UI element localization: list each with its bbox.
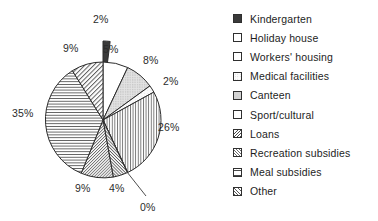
legend-item-other[interactable]: Other bbox=[233, 182, 378, 201]
legend-item-holiday-house[interactable]: Holiday house bbox=[233, 28, 378, 47]
pie-label-canteen: 26% bbox=[158, 122, 179, 133]
legend-swatch-other-icon bbox=[233, 187, 242, 196]
leader-line-sport-cultural bbox=[127, 172, 146, 196]
chart-plot-area: 2% 5% 9% 8% 2% 26% 35% 9% 4% 0% bbox=[0, 0, 200, 221]
legend-label-recreation-subsidies: Recreation subsidies bbox=[250, 147, 350, 159]
legend-item-loans[interactable]: Loans bbox=[233, 124, 378, 143]
pie-label-workers-housing: 8% bbox=[143, 55, 158, 66]
pie-label-other: 9% bbox=[63, 43, 78, 54]
legend-swatch-recreation-subsidies-icon bbox=[233, 148, 242, 157]
legend-item-workers-housing[interactable]: Workers' housing bbox=[233, 47, 378, 66]
legend-swatch-loans-icon bbox=[233, 129, 242, 138]
legend-label-kindergarten: Kindergarten bbox=[250, 13, 312, 25]
legend-item-kindergarten[interactable]: Kindergarten bbox=[233, 9, 378, 28]
pie-chart-figure: 2% 5% 9% 8% 2% 26% 35% 9% 4% 0% Kinderga… bbox=[0, 0, 378, 221]
pie-label-sport-cultural: 0% bbox=[140, 202, 155, 213]
chart-legend: Kindergarten Holiday house Workers' hous… bbox=[233, 9, 378, 201]
legend-label-workers-housing: Workers' housing bbox=[250, 51, 333, 63]
legend-swatch-workers-housing-icon bbox=[233, 52, 242, 61]
legend-label-holiday-house: Holiday house bbox=[250, 32, 319, 44]
pie-label-recreation-subsidies: 9% bbox=[75, 183, 90, 194]
legend-item-canteen[interactable]: Canteen bbox=[233, 86, 378, 105]
legend-item-medical-facilities[interactable]: Medical facilities bbox=[233, 67, 378, 86]
legend-label-meal-subsidies: Meal subsidies bbox=[250, 166, 322, 178]
legend-label-medical-facilities: Medical facilities bbox=[250, 70, 329, 82]
legend-swatch-sport-cultural-icon bbox=[233, 110, 242, 119]
pie-label-medical-facilities: 2% bbox=[163, 76, 178, 87]
legend-swatch-canteen-icon bbox=[233, 91, 242, 100]
legend-label-sport-cultural: Sport/cultural bbox=[250, 109, 314, 121]
legend-swatch-kindergarten-icon bbox=[233, 14, 242, 23]
legend-swatch-holiday-house-icon bbox=[233, 33, 242, 42]
legend-item-sport-cultural[interactable]: Sport/cultural bbox=[233, 105, 378, 124]
pie-label-kindergarten: 2% bbox=[93, 14, 108, 25]
legend-swatch-medical-facilities-icon bbox=[233, 72, 242, 81]
legend-label-other: Other bbox=[250, 185, 277, 197]
pie-label-loans: 4% bbox=[109, 183, 124, 194]
pie-label-meal-subsidies: 35% bbox=[12, 108, 33, 119]
legend-label-loans: Loans bbox=[250, 128, 279, 140]
legend-label-canteen: Canteen bbox=[250, 89, 291, 101]
legend-item-meal-subsidies[interactable]: Meal subsidies bbox=[233, 163, 378, 182]
pie-label-holiday-house: 5% bbox=[103, 44, 118, 55]
legend-swatch-meal-subsidies-icon bbox=[233, 168, 242, 177]
legend-item-recreation-subsidies[interactable]: Recreation subsidies bbox=[233, 143, 378, 162]
